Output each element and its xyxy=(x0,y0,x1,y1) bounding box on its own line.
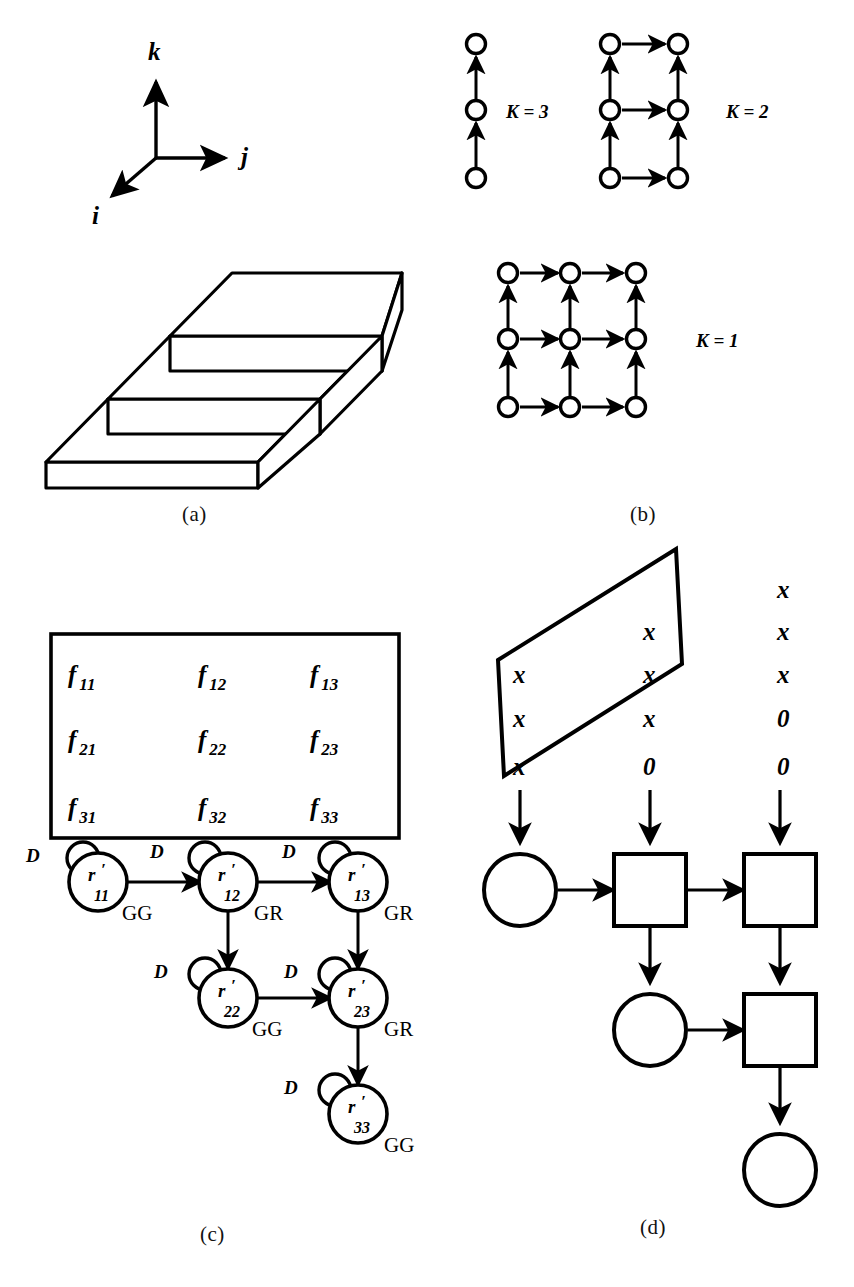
entry-c3-r1: x xyxy=(776,576,790,603)
label-D-r22: D xyxy=(153,961,168,982)
svg-text:r: r xyxy=(348,864,356,885)
graph-k1-label: K = 1 xyxy=(695,330,739,351)
k2-node-1-1 xyxy=(669,101,688,120)
k1-node-1-2 xyxy=(561,398,580,417)
label-D-r13: D xyxy=(281,841,296,862)
entry-c2-r3: x xyxy=(642,705,656,732)
axis-triad xyxy=(112,82,225,196)
svg-text:12: 12 xyxy=(224,887,240,904)
k3-node-0-1 xyxy=(467,101,486,120)
svg-text:r: r xyxy=(348,980,356,1001)
k2-node-0-0 xyxy=(601,35,620,54)
flow-node-r2-c2-circle xyxy=(614,994,686,1066)
svg-text:13: 13 xyxy=(354,887,370,904)
panel-d: x x x x x x 0 x x x 0 0 xyxy=(440,540,850,1240)
graph-k3-label: K = 3 xyxy=(505,101,549,122)
svg-text:′: ′ xyxy=(361,976,366,995)
k1-node-1-0 xyxy=(561,264,580,283)
svg-text:33: 33 xyxy=(353,1119,370,1136)
label-D-r12: D xyxy=(149,841,164,862)
k1-node-2-2 xyxy=(627,398,646,417)
panel-b-caption: (b) xyxy=(630,502,656,527)
panel-d-caption: (d) xyxy=(640,1215,666,1240)
label-GG-r22: GG xyxy=(252,1017,282,1041)
svg-text:′: ′ xyxy=(231,860,236,879)
entry-c3-r4: 0 xyxy=(777,705,790,732)
label-GR-r13: GR xyxy=(384,901,413,925)
k1-node-0-0 xyxy=(499,264,518,283)
k2-node-1-2 xyxy=(669,169,688,188)
entry-column-3: x x x 0 0 xyxy=(776,576,790,780)
label-D-r23: D xyxy=(283,961,298,982)
tier1-front-face xyxy=(46,462,258,488)
entry-c1-r1: x xyxy=(512,661,526,688)
j-axis-label: j xyxy=(237,143,249,170)
svg-text:′: ′ xyxy=(101,860,106,879)
entry-column-1: x x x xyxy=(512,661,526,780)
graph-k2-label: K = 2 xyxy=(725,101,769,122)
svg-text:22: 22 xyxy=(223,1003,240,1020)
panel-c-caption: (c) xyxy=(200,1222,225,1247)
k-axis-label: k xyxy=(148,38,161,65)
panel-c-drawing: f11 f12 f13 f21 f22 f23 xyxy=(10,620,430,1240)
flow-node-r1-c2-square xyxy=(614,854,686,926)
i-axis xyxy=(112,158,156,196)
panel-d-drawing: x x x x x x 0 x x x 0 0 xyxy=(440,540,850,1240)
i-axis-label: i xyxy=(92,202,99,229)
graph-k2: K = 2 xyxy=(601,35,769,188)
entry-column-2: x x x 0 xyxy=(642,618,656,780)
flow-node-r2-c3-square xyxy=(744,994,816,1066)
entry-c3-r5: 0 xyxy=(777,753,790,780)
k1-node-0-2 xyxy=(499,398,518,417)
k1-node-1-1 xyxy=(561,330,580,349)
stepped-block xyxy=(46,273,402,488)
flow-node-r1-c3-square xyxy=(744,854,816,926)
k3-node-0-2 xyxy=(467,169,486,188)
entry-c1-r3: x xyxy=(512,753,526,780)
k2-node-1-0 xyxy=(669,35,688,54)
svg-text:r: r xyxy=(218,864,226,885)
k2-node-0-1 xyxy=(601,101,620,120)
label-D-r11: D xyxy=(25,845,40,866)
k1-node-2-0 xyxy=(627,264,646,283)
label-GR-r23: GR xyxy=(384,1017,413,1041)
k2-node-0-2 xyxy=(601,169,620,188)
label-GG-r11: GG xyxy=(122,901,152,925)
entry-c3-r3: x xyxy=(776,661,790,688)
svg-text:′: ′ xyxy=(231,976,236,995)
svg-text:′: ′ xyxy=(361,1092,366,1111)
entry-c2-r2: x xyxy=(642,661,656,688)
k1-node-0-1 xyxy=(499,330,518,349)
entry-c3-r2: x xyxy=(776,618,790,645)
svg-text:23: 23 xyxy=(353,1003,370,1020)
entry-c1-r2: x xyxy=(512,705,526,732)
panel-c: f11 f12 f13 f21 f22 f23 xyxy=(10,620,430,1240)
svg-text:r: r xyxy=(88,864,96,885)
panel-b-drawing: K = 3 K = 2 xyxy=(430,10,850,500)
k1-node-2-1 xyxy=(627,330,646,349)
svg-text:′: ′ xyxy=(361,860,366,879)
tier2-front-face xyxy=(108,399,320,434)
svg-text:r: r xyxy=(348,1096,356,1117)
label-GG-r33: GG xyxy=(384,1133,414,1157)
svg-text:r: r xyxy=(218,980,226,1001)
label-D-r33: D xyxy=(283,1077,298,1098)
graph-k3: K = 3 xyxy=(467,35,549,188)
panel-a-caption: (a) xyxy=(182,502,207,527)
panel-a: k j i (a) xyxy=(30,10,430,500)
panel-a-drawing: k j i xyxy=(30,10,430,500)
flow-node-r1-c1-circle xyxy=(484,854,556,926)
graph-k1: K = 1 xyxy=(499,264,739,417)
tier3-front-face xyxy=(170,336,382,371)
entry-c2-r1: x xyxy=(642,618,656,645)
entry-c2-r4: 0 xyxy=(643,753,656,780)
svg-text:11: 11 xyxy=(94,887,109,904)
tier3-top-face xyxy=(170,273,402,336)
flow-node-r3-c3-circle xyxy=(744,1134,816,1206)
panel-b: K = 3 K = 2 xyxy=(430,10,850,500)
k3-node-0-0 xyxy=(467,35,486,54)
label-GR-r12: GR xyxy=(254,901,283,925)
